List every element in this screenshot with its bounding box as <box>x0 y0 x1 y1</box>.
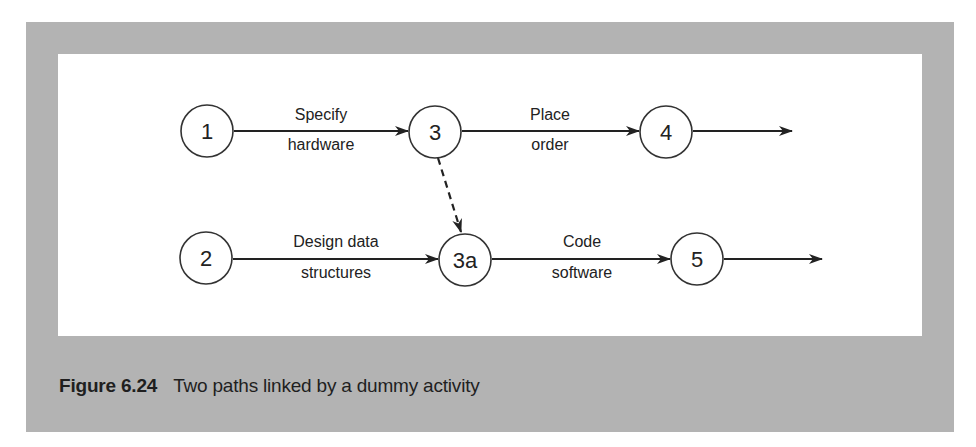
edge-label-line2: software <box>552 264 613 281</box>
svg-text:4: 4 <box>660 120 672 145</box>
edge-label-line2: hardware <box>288 136 355 153</box>
figure-caption-text: Two paths linked by a dummy activity <box>173 375 479 396</box>
svg-text:3: 3 <box>429 120 441 145</box>
edge-1-3: Specify hardware <box>234 106 408 153</box>
figure-number: Figure 6.24 <box>59 375 157 396</box>
edge-label-line1: Specify <box>295 106 347 123</box>
node-1: 1 <box>181 105 233 157</box>
figure-caption: Figure 6.24Two paths linked by a dummy a… <box>59 375 480 397</box>
edge-label-line2: order <box>531 136 569 153</box>
node-5: 5 <box>671 233 723 285</box>
diagram-canvas: Specify hardware Place order Design data… <box>58 54 922 336</box>
node-2: 2 <box>180 232 232 284</box>
svg-text:3a: 3a <box>453 248 478 273</box>
edge-label-line2: structures <box>301 264 371 281</box>
node-4: 4 <box>640 106 692 158</box>
figure-frame: Specify hardware Place order Design data… <box>26 22 954 432</box>
edge-label-line1: Design data <box>293 233 378 250</box>
dummy-activity-3-3a <box>438 158 461 232</box>
svg-text:1: 1 <box>201 119 213 144</box>
edge-2-3a: Design data structures <box>233 233 438 281</box>
edge-label-line1: Code <box>563 233 601 250</box>
activity-network-diagram: Specify hardware Place order Design data… <box>58 54 922 336</box>
edge-3a-5: Code software <box>492 233 670 281</box>
svg-text:5: 5 <box>691 247 703 272</box>
svg-text:2: 2 <box>200 246 212 271</box>
edge-3-4: Place order <box>462 106 639 153</box>
node-3a: 3a <box>439 234 491 286</box>
edge-label-line1: Place <box>530 106 570 123</box>
node-3: 3 <box>409 106 461 158</box>
